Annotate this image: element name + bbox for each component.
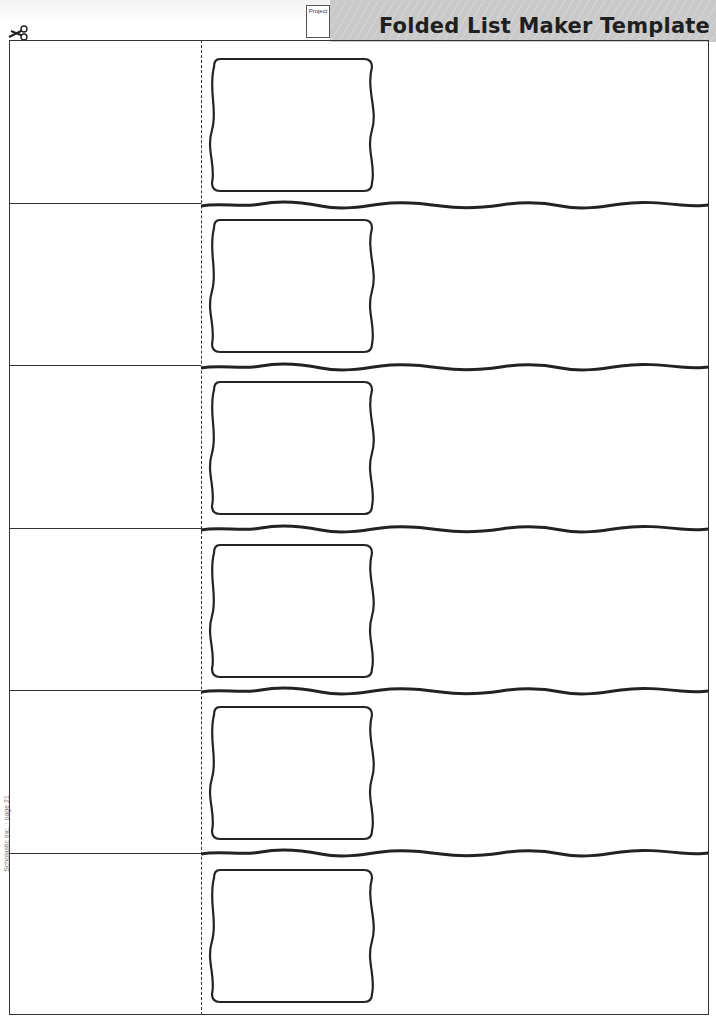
header-fade xyxy=(0,0,330,22)
write-in-box xyxy=(206,866,378,1006)
left-cut-line xyxy=(9,528,201,529)
wavy-cut-line xyxy=(201,523,709,535)
scissors-icon xyxy=(8,25,30,41)
left-cut-line xyxy=(9,690,201,691)
write-in-box xyxy=(206,55,378,195)
side-credit: Scholastic Inc. · page 21 xyxy=(3,764,10,904)
wavy-cut-line xyxy=(201,847,709,859)
left-cut-line xyxy=(9,853,201,854)
project-tag: Project xyxy=(306,5,330,38)
wavy-cut-line xyxy=(201,685,709,697)
write-in-box xyxy=(206,541,378,681)
left-cut-line xyxy=(9,203,201,204)
write-in-box xyxy=(206,216,378,356)
left-cut-line xyxy=(9,365,201,366)
page-title: Folded List Maker Template xyxy=(379,14,710,38)
write-in-box xyxy=(206,378,378,518)
wavy-cut-line xyxy=(201,199,709,211)
wavy-cut-line xyxy=(201,361,709,373)
write-in-box xyxy=(206,703,378,843)
